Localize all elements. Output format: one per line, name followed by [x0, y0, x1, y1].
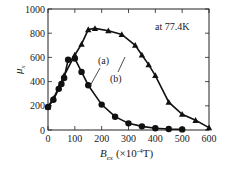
data-point-a [139, 123, 145, 129]
y-tick-label: 200 [30, 100, 45, 111]
data-point-a [78, 69, 84, 75]
data-point-a [98, 101, 104, 107]
y-tick-label: 0 [40, 125, 45, 136]
data-point-a [112, 113, 118, 119]
series-a-label: (a) [98, 55, 109, 67]
x-tick-label: 300 [121, 133, 136, 144]
series-line-b [48, 28, 209, 127]
data-point-b [166, 99, 172, 105]
y-tick-label: 1000 [25, 4, 45, 15]
data-point-a [179, 126, 185, 132]
data-point-a [166, 126, 172, 132]
y-axis-label: μx [12, 64, 27, 75]
series-b-label: (b) [110, 73, 122, 85]
x-tick-label: 400 [148, 133, 163, 144]
y-tick-label: 400 [30, 76, 45, 87]
x-tick-label: 200 [94, 133, 109, 144]
temperature-annotation: at 77.4K [155, 21, 190, 32]
data-point-a [152, 125, 158, 131]
x-axis-label: Bex(×10-4T) [100, 147, 153, 162]
y-tick-label: 600 [30, 52, 45, 63]
series [45, 25, 212, 132]
data-point-b [78, 41, 84, 47]
x-tick-label: 100 [67, 133, 82, 144]
x-tick-label: 500 [175, 133, 190, 144]
y-tick-label: 800 [30, 28, 45, 39]
data-point-b [61, 72, 67, 78]
series-a-arrow [90, 68, 100, 86]
chart: 010020030040050060002004006008001000 at … [0, 0, 227, 169]
x-tick-label: 0 [46, 133, 51, 144]
series-b-arrow [118, 57, 125, 72]
x-tick-label: 600 [202, 133, 217, 144]
data-point-a [125, 120, 131, 126]
